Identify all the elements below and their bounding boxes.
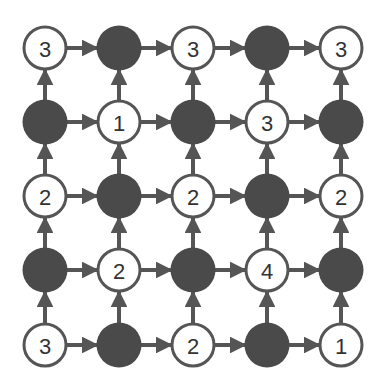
grid-diagram: 3331322224321	[0, 0, 387, 389]
node-label: 2	[187, 334, 199, 359]
numbered-node: 2	[24, 175, 66, 217]
filled-node	[97, 323, 142, 368]
node-label: 2	[39, 185, 51, 210]
numbered-node: 2	[320, 175, 362, 217]
numbered-node: 3	[24, 324, 66, 366]
filled-node	[97, 26, 142, 71]
node-label: 1	[113, 111, 125, 136]
filled-circle	[245, 174, 290, 219]
node-label: 2	[335, 185, 347, 210]
numbered-node: 1	[98, 101, 140, 143]
filled-circle	[97, 323, 142, 368]
filled-circle	[97, 174, 142, 219]
filled-circle	[23, 248, 68, 293]
node-label: 3	[335, 37, 347, 62]
filled-circle	[245, 26, 290, 71]
filled-circle	[319, 248, 364, 293]
filled-node	[23, 248, 68, 293]
filled-circle	[23, 100, 68, 145]
numbered-node: 2	[98, 249, 140, 291]
node-label: 2	[187, 185, 199, 210]
numbered-node: 4	[246, 249, 288, 291]
node-label: 3	[39, 37, 51, 62]
filled-node	[171, 100, 216, 145]
numbered-node: 2	[172, 324, 214, 366]
node-label: 3	[261, 111, 273, 136]
filled-circle	[171, 100, 216, 145]
node-label: 1	[335, 334, 347, 359]
filled-node	[319, 248, 364, 293]
node-label: 4	[261, 259, 273, 284]
numbered-node: 3	[172, 27, 214, 69]
numbered-node: 3	[24, 27, 66, 69]
node-label: 3	[187, 37, 199, 62]
numbered-node: 3	[246, 101, 288, 143]
filled-node	[245, 174, 290, 219]
node-label: 2	[113, 259, 125, 284]
numbered-node: 2	[172, 175, 214, 217]
numbered-node: 1	[320, 324, 362, 366]
filled-node	[171, 248, 216, 293]
filled-node	[319, 100, 364, 145]
filled-circle	[97, 26, 142, 71]
filled-node	[23, 100, 68, 145]
node-label: 3	[39, 334, 51, 359]
filled-node	[97, 174, 142, 219]
filled-node	[245, 323, 290, 368]
filled-circle	[245, 323, 290, 368]
filled-circle	[319, 100, 364, 145]
filled-node	[245, 26, 290, 71]
numbered-node: 3	[320, 27, 362, 69]
filled-circle	[171, 248, 216, 293]
